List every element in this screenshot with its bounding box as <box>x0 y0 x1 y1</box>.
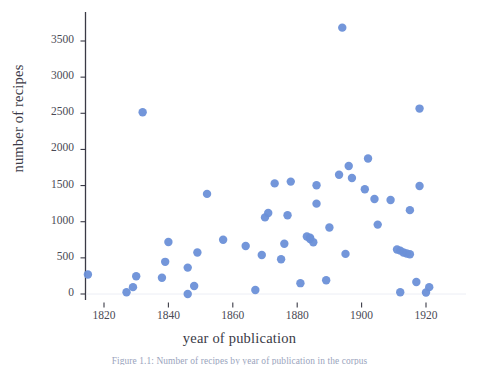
data-point <box>132 272 140 280</box>
y-tick-label: 3500 <box>34 33 74 45</box>
data-point <box>425 283 433 291</box>
y-tick-label: 500 <box>34 250 74 262</box>
data-point <box>161 258 169 266</box>
data-point <box>251 286 259 294</box>
data-point <box>396 288 404 296</box>
data-point <box>138 108 146 116</box>
x-tick-label: 1820 <box>74 309 134 321</box>
data-point <box>325 223 333 231</box>
y-tick-label: 2000 <box>34 141 74 153</box>
x-tick-label: 1900 <box>332 309 392 321</box>
y-tick-label: 2500 <box>34 105 74 117</box>
data-point <box>184 290 192 298</box>
x-tick-label: 1860 <box>203 309 263 321</box>
data-point <box>264 209 272 217</box>
data-point <box>193 248 201 256</box>
data-point <box>415 182 423 190</box>
data-point <box>312 199 320 207</box>
data-points-layer <box>84 23 434 298</box>
y-tick-label: 0 <box>34 286 74 298</box>
data-point <box>158 274 166 282</box>
data-point <box>164 238 172 246</box>
data-point <box>312 181 320 189</box>
data-point <box>241 242 249 250</box>
axis-ticks <box>81 41 427 308</box>
data-point <box>338 23 346 31</box>
data-point <box>184 263 192 271</box>
data-point <box>415 104 423 112</box>
figure-caption: Figure 1.1: Number of recipes by year of… <box>0 356 479 365</box>
data-point <box>345 162 353 170</box>
data-point <box>341 250 349 258</box>
x-tick-label: 1880 <box>267 309 327 321</box>
data-point <box>309 238 317 246</box>
y-tick-label: 1000 <box>34 214 74 226</box>
data-point <box>283 211 291 219</box>
data-point <box>364 154 372 162</box>
data-point <box>129 283 137 291</box>
data-point <box>386 196 394 204</box>
data-point <box>277 255 285 263</box>
data-point <box>374 220 382 228</box>
data-point <box>412 278 420 286</box>
data-point <box>280 240 288 248</box>
y-axis-label: number of recipes <box>10 19 27 219</box>
data-point <box>348 174 356 182</box>
data-point <box>219 236 227 244</box>
data-point <box>190 282 198 290</box>
x-tick-label: 1840 <box>138 309 198 321</box>
data-point <box>322 276 330 284</box>
x-tick-label: 1920 <box>396 309 456 321</box>
data-point <box>287 177 295 185</box>
y-tick-label: 3000 <box>34 69 74 81</box>
figure-container: number of recipes year of publication 18… <box>0 0 479 365</box>
data-point <box>258 251 266 259</box>
data-point <box>406 250 414 258</box>
data-point <box>203 190 211 198</box>
data-point <box>84 270 92 278</box>
y-tick-label: 1500 <box>34 178 74 190</box>
data-point <box>406 206 414 214</box>
data-point <box>370 195 378 203</box>
x-axis-label: year of publication <box>0 330 479 347</box>
data-point <box>361 185 369 193</box>
plot-axes <box>86 12 467 303</box>
data-point <box>270 179 278 187</box>
data-point <box>296 279 304 287</box>
data-point <box>335 171 343 179</box>
